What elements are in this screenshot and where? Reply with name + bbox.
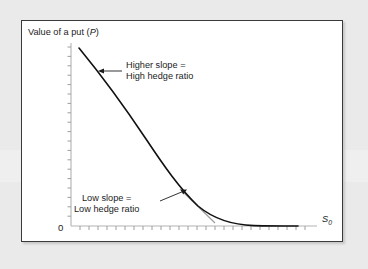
low-slope-leader-line [160,191,184,201]
x-axis-label: S0 [322,214,332,226]
low-slope-label-line2: Low hedge ratio [74,204,139,214]
y-axis-label-main: Value of a put ( [28,27,90,37]
figure-panel: Value of a put (P) 0 S0 Higher slope = H… [21,20,343,242]
high-slope-label-line2: High hedge ratio [126,71,193,81]
annotation-high-slope: Higher slope = High hedge ratio [98,60,193,81]
y-axis-label-close: ) [96,27,99,37]
put-value-chart: Value of a put (P) 0 S0 Higher slope = H… [22,21,342,241]
x-axis-label-subscript: 0 [328,219,332,226]
annotation-low-slope: Low slope = Low hedge ratio [74,190,187,215]
y-axis-label: Value of a put (P) [28,27,99,37]
origin-label: 0 [58,222,63,233]
low-slope-label-line1: Low slope = [82,193,131,203]
high-slope-label-line1: Higher slope = [126,60,186,70]
